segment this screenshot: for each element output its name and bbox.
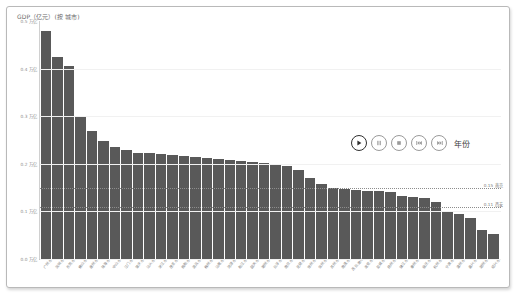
x-tick: 肇庆市 [133, 261, 143, 301]
bar[interactable] [41, 31, 51, 259]
bar[interactable] [374, 191, 384, 259]
x-tick: 珠海市 [98, 261, 108, 301]
reference-line: 0.11 西安 [40, 207, 501, 208]
x-tick: 南京市 [282, 261, 292, 301]
gridline [40, 69, 501, 70]
x-tick: 苏州市 [328, 261, 338, 301]
x-tick: 韶关市 [247, 261, 257, 301]
bar[interactable] [213, 159, 223, 259]
bar[interactable] [202, 158, 212, 259]
bar[interactable] [362, 191, 372, 259]
x-tick: 揭阳市 [179, 261, 189, 301]
next-frame-icon[interactable] [431, 135, 447, 151]
gridline [40, 211, 501, 212]
y-tick-label: 0.2 万亿 [21, 161, 38, 167]
bar[interactable] [190, 157, 200, 259]
bar[interactable] [477, 230, 487, 259]
bar[interactable] [225, 160, 235, 259]
x-tick: 湖州市 [477, 261, 487, 301]
bar[interactable] [397, 196, 407, 259]
bar[interactable] [454, 214, 464, 259]
bar[interactable] [488, 234, 498, 259]
x-axis: 广州市深圳市东莞市佛山市惠州市珠海市中山市江门市肇庆市汕头市湛江市茂名市揭阳市清… [41, 261, 499, 301]
x-tick: 江门市 [121, 261, 131, 301]
chart-card: GDP（亿元）(按 城市) 0.5 万亿0.4 万亿0.3 万亿0.2 万亿0.… [6, 6, 510, 288]
x-tick: 泰州市 [408, 261, 418, 301]
x-tick: 杭州市 [431, 261, 441, 301]
bar[interactable] [121, 150, 131, 259]
x-tick: 河源市 [225, 261, 235, 301]
x-tick: 宿迁市 [419, 261, 429, 301]
bar[interactable] [293, 170, 303, 259]
x-tick: 淮安市 [362, 261, 372, 301]
bar[interactable] [465, 218, 475, 259]
x-tick: 梅州市 [202, 261, 212, 301]
x-tick: 中山市 [110, 261, 120, 301]
x-tick: 南通市 [339, 261, 349, 301]
x-tick: 盐城市 [374, 261, 384, 301]
x-tick: 清远市 [190, 261, 200, 301]
x-tick: 宁波市 [442, 261, 452, 301]
playback-controls: 年份 [351, 135, 470, 151]
x-tick: 云浮市 [270, 261, 280, 301]
stop-icon[interactable] [391, 135, 407, 151]
bar[interactable] [351, 190, 361, 259]
bar[interactable] [305, 178, 315, 259]
x-tick: 绍兴市 [488, 261, 498, 301]
y-tick-label: 0.3 万亿 [21, 113, 38, 119]
gridline [40, 164, 501, 165]
reference-line: 0.15 南京 [40, 188, 501, 189]
bar[interactable] [339, 189, 349, 259]
play-icon[interactable] [351, 135, 367, 151]
x-tick: 汕头市 [144, 261, 154, 301]
x-tick: 无锡市 [293, 261, 303, 301]
x-tick: 连云港市 [351, 261, 361, 301]
bar[interactable] [236, 161, 246, 259]
y-tick-label: 0.5 万亿 [21, 18, 38, 24]
x-tick: 深圳市 [52, 261, 62, 301]
bar[interactable] [328, 188, 338, 259]
y-axis: 0.5 万亿0.4 万亿0.3 万亿0.2 万亿0.1 万亿0.0 万亿 [17, 21, 39, 259]
y-tick-label: 0.0 万亿 [21, 256, 38, 262]
x-tick: 潮州市 [259, 261, 269, 301]
x-tick: 惠州市 [87, 261, 97, 301]
x-tick: 茂名市 [167, 261, 177, 301]
y-tick-label: 0.1 万亿 [21, 208, 38, 214]
bar[interactable] [87, 131, 97, 259]
x-tick: 温州市 [454, 261, 464, 301]
gridline [40, 259, 501, 260]
x-tick: 扬州市 [385, 261, 395, 301]
x-tick: 东莞市 [64, 261, 74, 301]
bar[interactable] [64, 66, 74, 259]
previous-frame-icon[interactable] [411, 135, 427, 151]
reference-line-label: 0.11 西安 [484, 201, 503, 207]
x-tick: 阳江市 [236, 261, 246, 301]
bar[interactable] [316, 184, 326, 259]
y-tick-label: 0.4 万亿 [21, 66, 38, 72]
pause-icon[interactable] [371, 135, 387, 151]
bar[interactable] [98, 141, 108, 259]
x-tick: 嘉兴市 [465, 261, 475, 301]
bar[interactable] [52, 57, 62, 259]
playback-label: 年份 [454, 138, 470, 149]
screenshot-root: GDP（亿元）(按 城市) 0.5 万亿0.4 万亿0.3 万亿0.2 万亿0.… [0, 0, 518, 307]
bar[interactable] [442, 211, 452, 259]
x-tick: 湛江市 [156, 261, 166, 301]
x-tick: 徐州市 [305, 261, 315, 301]
reference-line-label: 0.15 南京 [484, 182, 503, 188]
x-tick: 佛山市 [75, 261, 85, 301]
gridline [40, 116, 501, 117]
x-tick: 常州市 [316, 261, 326, 301]
x-tick: 镇江市 [397, 261, 407, 301]
x-tick: 广州市 [41, 261, 51, 301]
bar[interactable] [385, 192, 395, 259]
y-axis-line [39, 21, 40, 259]
x-tick: 汕尾市 [213, 261, 223, 301]
